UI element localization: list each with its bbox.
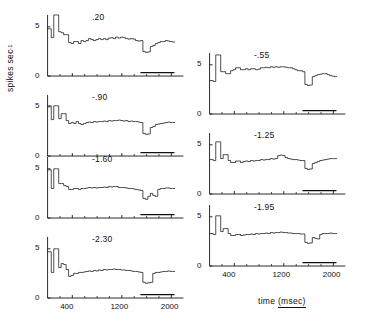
panel-title: -1.95 (254, 202, 274, 212)
y-tick-label: 5 (197, 59, 201, 68)
panel-title: -1.60 (92, 154, 112, 164)
plot-area (208, 204, 348, 268)
panel-minus-1-95 (208, 204, 348, 268)
panel-title: -1.25 (254, 130, 274, 140)
panel-minus-1-60 (46, 156, 186, 220)
panel-minus-90 (46, 94, 186, 158)
y-tick-label: 0 (35, 71, 39, 80)
psth-trace (210, 142, 337, 170)
psth-trace (210, 216, 337, 244)
psth-trace (210, 55, 337, 86)
y-tick-label: 0 (197, 261, 201, 270)
x-tick-label: 1200 (110, 302, 128, 311)
panel-title: -2.30 (92, 234, 112, 244)
plot-area (46, 236, 186, 300)
x-tick-label: 2000 (323, 270, 341, 279)
y-tick-label: 5 (197, 139, 201, 148)
panel-title: -.55 (254, 50, 269, 60)
y-tick-label: 0 (35, 213, 39, 222)
psth-trace (48, 249, 175, 283)
plot-area (46, 14, 186, 78)
y-axis-title: spikes sec-1 (2, 18, 18, 118)
y-tick-label: 0 (197, 189, 201, 198)
y-tick-label: 5 (197, 211, 201, 220)
y-tick-label: 5 (35, 163, 39, 172)
panel-minus-55 (208, 52, 348, 116)
y-axis-exponent: -1 (7, 44, 13, 50)
y-tick-label: 0 (197, 109, 201, 118)
psth-trace (48, 15, 175, 52)
y-tick-label: 5 (35, 21, 39, 30)
x-tick-label: 400 (222, 270, 235, 279)
psth-trace (48, 169, 175, 200)
panel-title: .20 (92, 12, 104, 22)
plot-area (46, 156, 186, 220)
y-axis-title-text: spikes sec (5, 50, 15, 93)
psth-figure: spikes sec-1 time (msec) .2005 -.9005 -1… (0, 0, 365, 323)
plot-area (46, 94, 186, 158)
x-axis-title-unit: (msec) (278, 296, 306, 308)
x-tick-label: 2000 (161, 302, 179, 311)
plot-area (208, 132, 348, 196)
plot-area (208, 52, 348, 116)
y-tick-label: 0 (35, 293, 39, 302)
x-axis-title: time (msec) (258, 296, 306, 306)
y-tick-label: 5 (35, 101, 39, 110)
panel-0-20 (46, 14, 186, 78)
panel-minus-2-30 (46, 236, 186, 300)
psth-trace (48, 106, 175, 135)
y-tick-label: 0 (35, 151, 39, 160)
x-axis-title-text: time (258, 296, 275, 306)
x-tick-label: 1200 (272, 270, 290, 279)
panel-minus-1-25 (208, 132, 348, 196)
x-tick-label: 400 (60, 302, 73, 311)
y-tick-label: 5 (35, 243, 39, 252)
panel-title: -.90 (92, 92, 107, 102)
